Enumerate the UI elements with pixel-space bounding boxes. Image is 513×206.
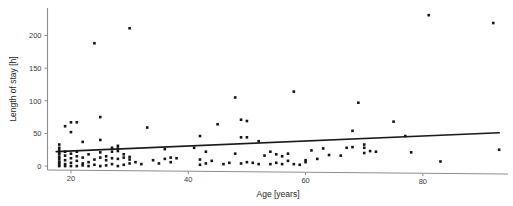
data-point: [222, 163, 225, 166]
data-point: [128, 162, 131, 165]
data-point: [369, 150, 372, 153]
scatter-plot-figure: 050100150200 20406080 Age [years] Length…: [0, 0, 513, 206]
data-point: [87, 153, 90, 156]
x-tick-label: 60: [301, 176, 309, 185]
data-point: [375, 150, 378, 153]
data-point: [128, 158, 131, 161]
data-point: [257, 163, 260, 166]
data-point: [275, 153, 278, 156]
x-axis-line: [48, 170, 509, 174]
data-point: [439, 160, 442, 163]
data-point: [357, 101, 360, 104]
data-point: [363, 146, 366, 149]
data-point: [293, 90, 296, 93]
plot-canvas: 050100150200 20406080 Age [years] Length…: [0, 0, 513, 206]
data-point: [81, 156, 84, 159]
data-point: [81, 162, 84, 165]
data-point: [251, 162, 254, 165]
data-point: [234, 96, 237, 99]
data-point: [234, 152, 237, 155]
data-point: [310, 149, 313, 152]
data-point: [134, 161, 137, 164]
data-point: [105, 164, 108, 167]
data-point: [76, 165, 79, 168]
data-point: [64, 125, 67, 128]
data-point: [87, 165, 90, 168]
y-axis-group: 050100150200: [29, 8, 48, 171]
data-point: [87, 161, 90, 164]
y-tick-label: 100: [29, 97, 42, 106]
data-point: [128, 27, 131, 30]
data-point: [99, 139, 102, 142]
y-axis-title: Length of stay [h]: [8, 56, 18, 121]
data-point: [298, 163, 301, 166]
data-point: [169, 156, 172, 159]
data-point: [111, 163, 114, 166]
data-point: [193, 146, 196, 149]
y-tick-label: 0: [37, 162, 41, 171]
data-point: [269, 150, 272, 153]
data-point: [64, 163, 67, 166]
data-point: [99, 165, 102, 168]
data-point: [281, 155, 284, 158]
data-point: [240, 136, 243, 139]
data-point: [263, 154, 266, 157]
data-point: [199, 135, 202, 138]
data-point: [117, 158, 120, 161]
data-point: [316, 158, 319, 161]
data-point: [70, 152, 73, 155]
data-point: [58, 156, 61, 159]
y-tick-label: 150: [29, 64, 42, 73]
data-point: [76, 121, 79, 124]
data-point: [205, 150, 208, 153]
data-point: [117, 165, 120, 168]
data-point: [122, 163, 125, 166]
data-point: [58, 162, 61, 165]
y-tick-label: 50: [33, 129, 41, 138]
data-point: [93, 42, 96, 45]
data-point: [158, 162, 161, 165]
data-point: [117, 150, 120, 153]
data-point: [199, 158, 202, 161]
data-point: [99, 156, 102, 159]
data-point: [164, 148, 167, 151]
data-point: [164, 158, 167, 161]
data-point: [345, 146, 348, 149]
data-point: [58, 143, 61, 146]
data-point: [339, 154, 342, 157]
data-point: [128, 156, 131, 159]
data-point: [64, 159, 67, 162]
data-point: [246, 120, 249, 123]
x-axis-title: Age [years]: [257, 189, 300, 199]
data-point: [427, 14, 430, 17]
data-point: [93, 158, 96, 161]
data-point: [281, 163, 284, 166]
y-tick-labels: 050100150200: [29, 31, 42, 171]
x-tick-label: 40: [184, 175, 192, 184]
data-point: [111, 150, 114, 153]
data-point: [392, 120, 395, 123]
data-point: [70, 165, 73, 168]
data-point: [240, 118, 243, 121]
regression-trend-line: [56, 133, 499, 152]
data-point: [269, 163, 272, 166]
data-point: [152, 159, 155, 162]
data-point: [122, 156, 125, 159]
x-tick-labels: 20406080: [67, 174, 427, 186]
data-point: [210, 160, 213, 163]
data-point: [70, 162, 73, 165]
data-point: [287, 152, 290, 155]
x-axis-group: 20406080: [48, 170, 509, 186]
data-point: [498, 148, 501, 151]
data-point: [64, 154, 67, 157]
data-point: [146, 126, 149, 129]
data-point: [70, 131, 73, 134]
data-point: [199, 163, 202, 166]
data-point: [240, 162, 243, 165]
data-point: [246, 161, 249, 164]
data-point: [58, 146, 61, 149]
data-point: [117, 145, 120, 148]
data-point: [410, 151, 413, 154]
data-point: [351, 130, 354, 133]
data-point: [351, 146, 354, 149]
